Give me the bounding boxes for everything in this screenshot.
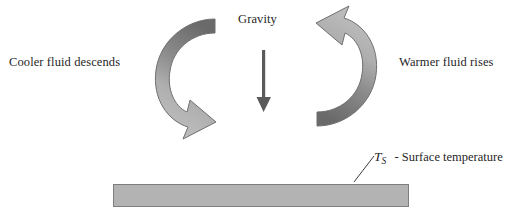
- surface-temperature-description: - Surface temperature: [394, 150, 502, 164]
- surface-temperature-annotation: TS- Surface temperature: [374, 150, 503, 168]
- right-arrow-body: [316, 6, 377, 126]
- label-cooler-fluid-descends: Cooler fluid descends: [9, 55, 120, 69]
- convection-diagram: Cooler fluid descends Warmer fluid rises…: [0, 0, 517, 213]
- counterclockwise-descending-flow-arrow: [155, 19, 216, 139]
- gravity-down-arrow: [257, 50, 272, 112]
- gravity-arrow-shaft: [262, 50, 265, 98]
- clockwise-rising-flow-arrow: [316, 6, 377, 126]
- diagram-vector-layer: [0, 0, 517, 213]
- label-warmer-fluid-rises: Warmer fluid rises: [399, 55, 494, 69]
- surface-temperature-subscript: S: [382, 156, 387, 166]
- gravity-arrow-head: [257, 97, 272, 112]
- surface-temperature-symbol: T: [374, 149, 382, 164]
- left-arrow-body: [155, 19, 216, 139]
- surface-temperature-leader-line: [354, 156, 374, 182]
- label-gravity: Gravity: [238, 12, 277, 26]
- heated-surface-plate: [113, 184, 409, 207]
